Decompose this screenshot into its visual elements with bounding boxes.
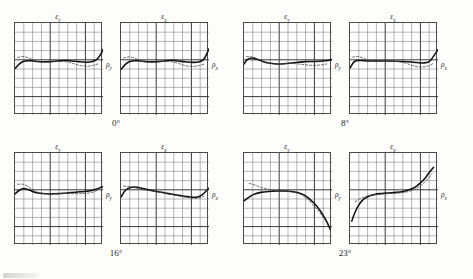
plot-svg bbox=[244, 153, 332, 245]
plot-svg bbox=[15, 153, 103, 245]
chart-panel: εyρy bbox=[243, 142, 331, 244]
plot-svg bbox=[350, 153, 438, 245]
curve-measured bbox=[352, 167, 434, 221]
x-axis-label-subscript: y bbox=[339, 64, 341, 70]
chart-panel: εxρx bbox=[349, 142, 437, 244]
grid-lines bbox=[121, 153, 209, 245]
x-axis-label: ρy bbox=[106, 61, 112, 72]
plot-svg bbox=[121, 153, 209, 245]
grid-lines bbox=[15, 153, 103, 245]
grid-lines bbox=[121, 23, 209, 115]
angle-caption: 16° bbox=[86, 248, 146, 258]
chart-panel: εxρx bbox=[120, 142, 208, 244]
chart-panel: εyρy bbox=[14, 12, 102, 114]
grid-lines bbox=[244, 153, 332, 245]
chart-panel: εxρx bbox=[349, 12, 437, 114]
x-axis-label: ρx bbox=[441, 61, 447, 72]
angle-caption: 8° bbox=[315, 118, 375, 128]
x-axis-label: ρx bbox=[212, 191, 218, 202]
plot-area bbox=[14, 152, 102, 244]
plot-area bbox=[120, 22, 208, 114]
x-axis-label-subscript: y bbox=[339, 194, 341, 200]
grid-lines bbox=[244, 23, 332, 115]
x-axis-label-subscript: x bbox=[445, 64, 447, 70]
grid-lines bbox=[350, 23, 438, 115]
plot-area bbox=[14, 22, 102, 114]
plot-area bbox=[349, 22, 437, 114]
chart-panel: εyρy bbox=[14, 142, 102, 244]
plot-svg bbox=[121, 23, 209, 115]
x-axis-label-subscript: y bbox=[110, 194, 112, 200]
x-axis-label: ρx bbox=[441, 191, 447, 202]
grid-lines bbox=[15, 23, 103, 115]
x-axis-label: ρy bbox=[106, 191, 112, 202]
chart-panel: εxρx bbox=[120, 12, 208, 114]
plot-svg bbox=[15, 23, 103, 115]
plot-area bbox=[243, 22, 331, 114]
x-axis-label: ρx bbox=[212, 61, 218, 72]
scan-smudge bbox=[3, 273, 39, 278]
figure-root: εyρyεxρx0°εyρyεxρx8°εyρyεxρx16°εyρyεxρx2… bbox=[0, 0, 473, 279]
x-axis-label-subscript: x bbox=[445, 194, 447, 200]
plot-svg bbox=[350, 23, 438, 115]
x-axis-label-subscript: x bbox=[216, 64, 218, 70]
plot-area bbox=[349, 152, 437, 244]
angle-caption: 0° bbox=[86, 118, 146, 128]
angle-caption: 23° bbox=[315, 248, 375, 258]
x-axis-label: ρy bbox=[335, 61, 341, 72]
plot-svg bbox=[244, 23, 332, 115]
chart-panel: εyρy bbox=[243, 12, 331, 114]
x-axis-label-subscript: y bbox=[110, 64, 112, 70]
x-axis-label-subscript: x bbox=[216, 194, 218, 200]
plot-area bbox=[243, 152, 331, 244]
x-axis-label: ρy bbox=[335, 191, 341, 202]
plot-area bbox=[120, 152, 208, 244]
